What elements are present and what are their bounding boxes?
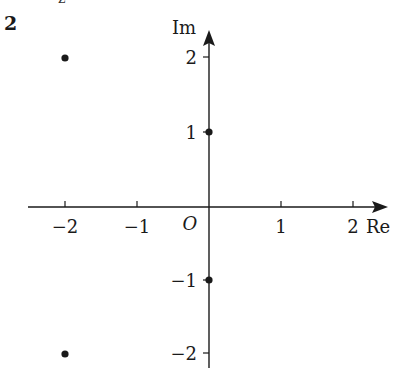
point-i xyxy=(205,128,212,135)
real-axis-label: Re xyxy=(366,216,390,237)
point-neg-i xyxy=(205,276,212,283)
point-neg2-minus-2i xyxy=(61,350,68,357)
y-tick-label: −1 xyxy=(170,270,197,291)
origin-label: O xyxy=(183,213,198,234)
x-tick-label: 2 xyxy=(347,216,358,237)
imaginary-axis-label: Im xyxy=(172,17,196,38)
y-tick-label: 1 xyxy=(186,122,197,143)
complex-plane: −2 −1 1 2 O Re Im 2 1 −1 −2 xyxy=(0,0,412,368)
x-tick-label: −2 xyxy=(52,216,79,237)
x-tick-label: 1 xyxy=(275,216,286,237)
point-neg2-plus-2i xyxy=(61,54,68,61)
x-tick-label: −1 xyxy=(124,216,151,237)
cropped-top-label: z xyxy=(58,0,66,8)
complex-plane-figure: 2 z −2 −1 1 2 O Re Im xyxy=(0,0,412,368)
problem-number: 2 xyxy=(4,12,17,34)
y-ticks xyxy=(203,57,209,353)
y-tick-label: −2 xyxy=(170,343,197,364)
y-tick-label: 2 xyxy=(186,47,197,68)
